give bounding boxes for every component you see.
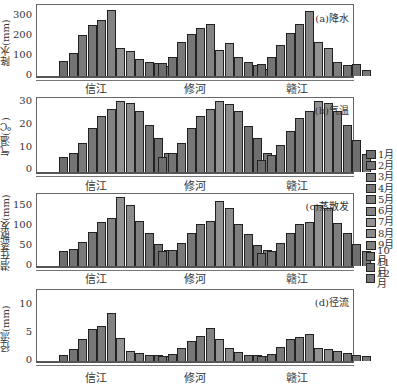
plot-area — [36, 4, 354, 76]
legend-label: 2月 — [378, 161, 394, 171]
bar — [352, 140, 361, 172]
bar — [295, 224, 304, 266]
bar — [97, 20, 106, 76]
legend-label: 7月 — [378, 217, 394, 227]
legend-label: 3月 — [378, 172, 394, 182]
bar — [168, 354, 177, 361]
bar — [314, 348, 323, 361]
bar — [333, 111, 342, 172]
bar — [59, 251, 68, 266]
legend-label: 12月 — [377, 269, 397, 289]
y-axis-label: 气温(℃) — [0, 107, 16, 167]
y-tick: 30 — [8, 95, 32, 106]
bar — [126, 351, 135, 361]
panel-temperature: 气温(℃) 30 20 10 0 (b)气温 信江 修河 赣江 — [0, 95, 397, 190]
bar — [286, 131, 295, 172]
plot-area — [36, 289, 354, 361]
bar — [88, 329, 97, 361]
bar — [225, 208, 234, 266]
bar — [206, 328, 215, 361]
x-category-label: 赣江 — [277, 80, 317, 96]
bar — [276, 243, 285, 266]
bar-group — [37, 290, 353, 361]
bar — [295, 24, 304, 76]
y-tick: 0 — [8, 69, 32, 80]
bar — [196, 28, 205, 76]
bar — [97, 326, 106, 361]
bar — [135, 111, 144, 172]
legend-swatch — [366, 207, 376, 216]
bar — [168, 57, 177, 76]
bar — [244, 62, 253, 76]
panel-precipitation: 降水(mm) 300 200 100 0 (a)降水 信江 修河 赣江 — [0, 0, 397, 95]
x-axis-line — [36, 266, 354, 268]
bar — [59, 157, 68, 172]
bar — [107, 109, 116, 172]
bar — [362, 70, 371, 76]
y-tick: 20 — [8, 118, 32, 129]
bar — [286, 339, 295, 361]
bar — [168, 153, 177, 172]
legend-label: 4月 — [378, 184, 394, 194]
bar — [215, 201, 224, 266]
bar — [145, 233, 154, 266]
bar — [257, 160, 266, 172]
bar — [196, 116, 205, 172]
bar — [267, 251, 276, 266]
bar — [352, 64, 361, 76]
bar — [234, 352, 243, 361]
bar — [343, 233, 352, 266]
y-tick: 0 — [8, 354, 32, 365]
legend-item: 8月 — [366, 228, 397, 239]
legend-label: 8月 — [378, 229, 394, 239]
legend-swatch — [366, 195, 376, 204]
bar — [257, 64, 266, 76]
bar — [352, 244, 361, 266]
y-tick: 150 — [8, 199, 32, 210]
legend-item: 1月 — [366, 149, 397, 160]
bar — [225, 43, 234, 76]
bar — [295, 118, 304, 172]
bar — [69, 53, 78, 76]
legend-swatch — [366, 184, 376, 193]
bar — [158, 251, 167, 266]
bar — [234, 224, 243, 266]
bar — [145, 62, 154, 76]
bar — [78, 35, 87, 76]
bar — [276, 145, 285, 172]
bar — [187, 128, 196, 172]
legend-item: 4月 — [366, 183, 397, 194]
x-axis-line — [36, 76, 354, 78]
bar — [267, 155, 276, 172]
x-axis-line-lower — [36, 365, 354, 366]
bar — [362, 356, 371, 361]
bar — [126, 51, 135, 76]
bar — [158, 63, 167, 76]
bar — [305, 334, 314, 361]
bar — [69, 153, 78, 172]
bar — [267, 354, 276, 361]
bar — [116, 197, 125, 266]
bar — [196, 336, 205, 361]
bar — [295, 337, 304, 362]
bar — [177, 42, 186, 76]
bar — [324, 48, 333, 76]
legend: 1月2月3月4月5月6月7月8月9月10月11月12月 — [366, 149, 397, 285]
bar — [69, 249, 78, 266]
bar — [305, 11, 314, 76]
y-tick: 200 — [8, 29, 32, 40]
panel-evapotranspiration: 潜在蒸散发(mm) 150 100 50 0 (c)蒸散发 信江 修河 赣江 — [0, 190, 397, 285]
x-category-label: 信江 — [76, 369, 116, 385]
bar — [305, 222, 314, 266]
bar — [267, 57, 276, 76]
legend-item: 7月 — [366, 217, 397, 228]
bar — [97, 116, 106, 172]
bar — [343, 65, 352, 76]
legend-swatch — [366, 218, 376, 227]
legend-item: 2月 — [366, 160, 397, 171]
bar — [145, 125, 154, 172]
bar — [116, 48, 125, 76]
legend-item: 5月 — [366, 194, 397, 205]
bar — [88, 232, 97, 266]
legend-label: 1月 — [378, 150, 394, 160]
